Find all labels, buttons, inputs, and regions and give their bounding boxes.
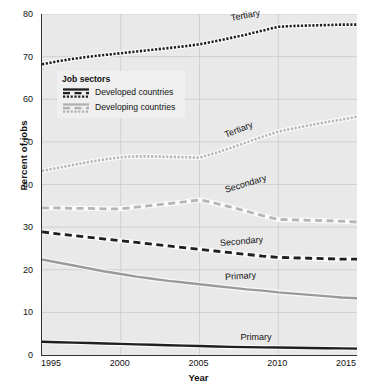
x-axis-title: Year xyxy=(41,372,356,383)
legend-item-label: Developed countries xyxy=(95,87,173,98)
x-tick-label: 2000 xyxy=(110,358,130,368)
legend: Job sectors Developed countriesDevelopin… xyxy=(57,71,185,118)
legend-swatch xyxy=(62,102,90,114)
y-tick-label: 70 xyxy=(7,52,33,62)
y-tick-label: 0 xyxy=(7,350,33,360)
series-label: Primary xyxy=(240,332,271,342)
x-tick-label: 2015 xyxy=(336,358,356,368)
x-tick-label: 2010 xyxy=(267,358,287,368)
plot-svg xyxy=(42,14,357,355)
y-tick-label: 30 xyxy=(7,222,33,232)
y-tick-label: 80 xyxy=(7,9,33,19)
x-tick-label: 2005 xyxy=(188,358,208,368)
chart-root: Percent of jobs Year 01020304050607080 1… xyxy=(0,0,370,388)
y-tick-label: 10 xyxy=(7,307,33,317)
legend-item-label: Developing countries xyxy=(95,102,175,113)
legend-item: Developing countries xyxy=(62,100,181,115)
y-tick-label: 60 xyxy=(7,94,33,104)
y-tick-label: 20 xyxy=(7,265,33,275)
y-tick-label: 50 xyxy=(7,137,33,147)
x-tick-label: 1995 xyxy=(41,358,61,368)
y-tick-label: 40 xyxy=(7,180,33,190)
legend-rows: Developed countriesDeveloping countries xyxy=(62,85,181,115)
legend-swatch xyxy=(62,87,90,99)
legend-item: Developed countries xyxy=(62,85,181,100)
legend-title: Job sectors xyxy=(62,74,181,85)
plot-area: TertiaryTertiarySecondarySecondaryPrimar… xyxy=(41,14,357,356)
y-axis-ticks: 01020304050607080 xyxy=(5,0,33,388)
